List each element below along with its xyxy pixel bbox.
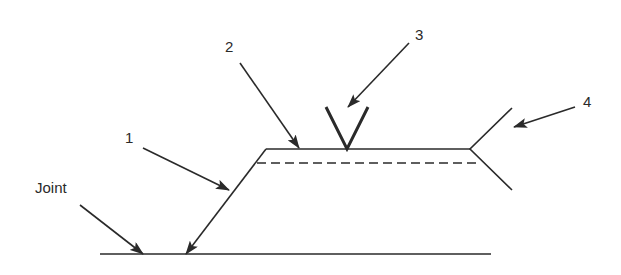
label-joint: Joint	[35, 179, 68, 196]
label-4: 4	[583, 93, 591, 110]
weld-symbol-diagram: 1 2 3 4 Joint	[0, 0, 621, 275]
callout-arrow-3	[348, 43, 409, 107]
label-1: 1	[125, 129, 133, 146]
callout-arrow-1	[143, 148, 229, 190]
label-3: 3	[415, 26, 423, 43]
callout-arrow-4	[514, 107, 575, 127]
callout-arrow-2	[240, 63, 299, 148]
arrow-line	[186, 149, 266, 254]
tail	[470, 108, 512, 190]
label-2: 2	[225, 38, 233, 55]
v-groove-weld-symbol	[326, 107, 368, 149]
callout-arrow-joint	[80, 205, 143, 254]
